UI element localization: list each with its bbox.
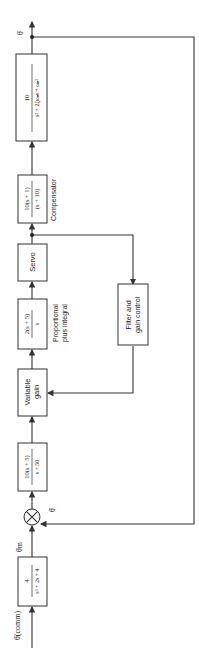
output-label: θ̇ [16,30,25,35]
pi-caption: Proportional plus integral [52,304,69,342]
feedback-loop-line [32,37,194,524]
svg-text:Filter and: Filter and [125,300,132,329]
input-label: θ̇(comm) [13,611,22,640]
svg-text:(s + 10): (s + 10) [33,189,41,209]
feedback-label: θ̇ [48,507,57,512]
svg-text:s + 50: s + 50 [34,460,40,475]
svg-text:10(s + 5): 10(s + 5) [23,455,31,479]
svg-text:10(s + 1): 10(s + 1) [23,187,31,211]
filter-gain-control-block [118,284,148,345]
summing-junction [24,509,40,525]
servo-label: Servo [28,252,37,272]
compensator-caption: Compensator [50,178,58,221]
prefilter-output-label: θ̇m [15,541,24,552]
svg-text:s² + 2ζωₙs + ωₙ²: s² + 2ζωₙs + ωₙ² [34,79,41,117]
svg-text:Variable: Variable [23,379,32,406]
filter-gain-control-label: Filter and gain control [125,296,142,333]
svg-text:Proportional: Proportional [52,304,60,342]
svg-text:2(s + 5): 2(s + 5) [23,314,31,334]
svg-text:s³ + 2s + 4: s³ + 2s + 4 [34,568,40,593]
svg-text:gain: gain [32,385,41,399]
svg-text:gain control: gain control [134,296,142,333]
filter-to-vargain-line [48,346,133,393]
svg-text:10: 10 [23,94,31,102]
svg-text:plus integral: plus integral [61,304,69,342]
plant-block [16,54,47,141]
svg-text:4: 4 [23,579,31,583]
output-takeoff-point [30,35,34,39]
block-diagram: θ̇(comm) 4 s³ + 2s + 4 θ̇m θ̇ 10(s + 5) … [0,0,199,659]
servo-takeoff-point [30,233,34,237]
